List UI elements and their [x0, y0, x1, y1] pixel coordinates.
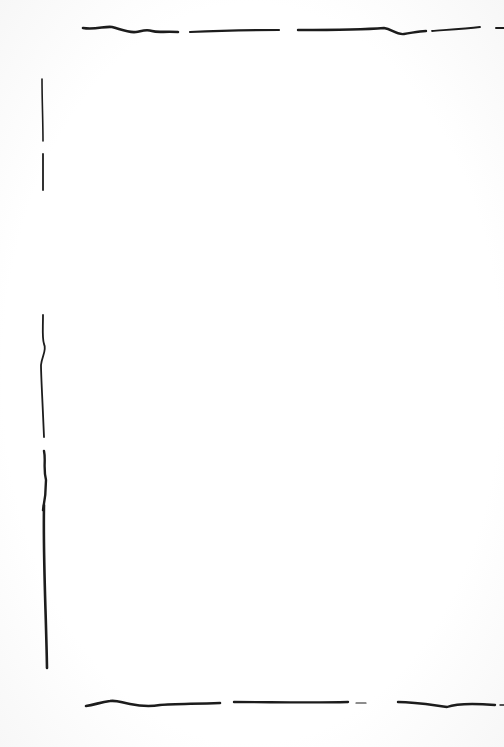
top-ink-stroke — [298, 28, 426, 34]
paper-page — [0, 0, 504, 747]
left-ink-stroke — [41, 315, 45, 437]
top-border-strokes — [83, 27, 504, 34]
bottom-ink-stroke — [398, 702, 495, 707]
hand-drawn-border — [0, 0, 504, 747]
bottom-border-strokes — [86, 701, 504, 707]
left-border-strokes — [41, 79, 47, 668]
left-ink-stroke — [42, 79, 43, 141]
top-ink-stroke — [190, 30, 279, 32]
left-ink-stroke — [44, 505, 47, 668]
top-ink-stroke — [83, 27, 178, 32]
bottom-ink-stroke — [86, 701, 220, 706]
top-ink-stroke — [432, 27, 480, 31]
left-ink-stroke — [43, 451, 46, 510]
